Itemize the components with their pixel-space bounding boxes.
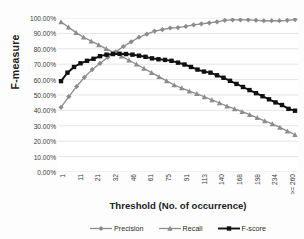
- legend-label: Recall: [183, 224, 203, 233]
- data-point-marker: [222, 18, 227, 23]
- y-axis-tick-labels: 100.00%90.00%80.00%70.00%60.00%50.00%40.…: [16, 12, 56, 178]
- y-axis-tick-label: 30.00%: [14, 122, 56, 129]
- plot-area: [58, 18, 298, 172]
- data-point-marker: [78, 61, 82, 65]
- y-axis-tick-label: 100.00%: [14, 15, 56, 22]
- data-point-marker: [260, 94, 264, 98]
- data-point-marker: [246, 18, 251, 22]
- x-axis-tick-labels: 111213246617591113140168198234>= 260: [58, 174, 298, 200]
- data-point-marker: [168, 25, 173, 30]
- square-marker-icon: [218, 224, 240, 233]
- data-point-marker: [104, 52, 108, 56]
- data-point-marker: [269, 18, 274, 23]
- series-line: [61, 22, 295, 135]
- data-point-marker: [59, 79, 63, 83]
- data-point-marker: [72, 65, 76, 69]
- chart-container: F-measure 100.00%90.00%80.00%70.00%60.00…: [0, 0, 304, 239]
- x-axis-tick-label: 234: [271, 174, 278, 185]
- y-axis-tick-label: 10.00%: [14, 153, 56, 160]
- data-point-marker: [215, 73, 219, 77]
- data-point-marker: [144, 32, 149, 37]
- data-point-marker: [152, 28, 157, 33]
- data-point-marker: [247, 88, 251, 92]
- data-point-marker: [191, 22, 196, 27]
- data-point-marker: [124, 52, 128, 56]
- data-point-marker: [199, 21, 204, 26]
- data-point-marker: [176, 60, 180, 64]
- data-point-marker: [293, 109, 297, 113]
- x-axis-tick-label: 21: [94, 174, 101, 181]
- x-axis-tick-label: 91: [183, 174, 190, 181]
- data-point-marker: [175, 25, 180, 30]
- x-axis-tick-label: 168: [236, 174, 243, 185]
- data-point-marker: [261, 18, 266, 23]
- data-point-marker: [277, 18, 282, 23]
- y-axis-tick-label: 80.00%: [14, 45, 56, 52]
- data-point-marker: [169, 59, 173, 63]
- data-point-marker: [253, 18, 258, 23]
- data-point-marker: [58, 19, 63, 24]
- chart-legend: PrecisionRecallF-score: [58, 221, 298, 235]
- data-point-marker: [267, 97, 271, 101]
- data-point-marker: [202, 69, 206, 73]
- x-axis-tick-label: 61: [147, 174, 154, 181]
- data-point-marker: [65, 70, 69, 74]
- data-point-marker: [234, 82, 238, 86]
- x-axis-tick-label: 198: [254, 174, 261, 185]
- x-axis-tick-label: 140: [218, 174, 225, 185]
- chart-plot-svg: [58, 18, 298, 172]
- x-axis-title: Threshold (No. of occurrence): [58, 200, 298, 211]
- data-point-marker: [285, 128, 290, 133]
- data-point-marker: [160, 27, 165, 32]
- y-axis-tick-label: 50.00%: [14, 92, 56, 99]
- legend-item-f-score[interactable]: F-score: [218, 224, 266, 233]
- y-axis-tick-label: 70.00%: [14, 61, 56, 68]
- legend-label: Precision: [114, 224, 144, 233]
- data-point-marker: [163, 58, 167, 62]
- data-point-marker: [96, 42, 101, 47]
- data-point-marker: [98, 225, 103, 230]
- triangle-marker-icon: [159, 224, 181, 233]
- data-point-marker: [292, 18, 297, 22]
- data-point-marker: [88, 38, 93, 43]
- data-point-marker: [126, 57, 131, 62]
- diamond-marker-icon: [90, 224, 112, 233]
- x-axis-tick-label: 75: [165, 174, 172, 181]
- data-point-marker: [111, 52, 115, 56]
- y-axis-tick-label: 90.00%: [14, 30, 56, 37]
- y-axis-tick-label: 0.00%: [14, 169, 56, 176]
- data-point-marker: [286, 107, 290, 111]
- data-point-marker: [81, 35, 86, 40]
- x-axis-tick-label: 11: [77, 174, 84, 181]
- data-point-marker: [156, 57, 160, 61]
- x-axis-tick-label: 46: [130, 174, 137, 181]
- data-point-marker: [195, 67, 199, 71]
- legend-item-precision[interactable]: Precision: [90, 224, 144, 233]
- data-point-marker: [156, 74, 161, 79]
- data-point-marker: [254, 91, 258, 95]
- data-point-marker: [241, 85, 245, 89]
- data-point-marker: [164, 78, 169, 83]
- series-f-score: [59, 52, 297, 113]
- data-point-marker: [189, 65, 193, 69]
- data-point-marker: [182, 62, 186, 66]
- series-recall: [58, 19, 297, 137]
- data-point-marker: [238, 18, 243, 22]
- data-point-marker: [226, 226, 230, 230]
- data-point-marker: [137, 54, 141, 58]
- y-axis-tick-label: 20.00%: [14, 138, 56, 145]
- x-axis-tick-label: 32: [112, 174, 119, 181]
- data-point-marker: [117, 52, 121, 56]
- data-point-marker: [183, 24, 188, 29]
- data-point-marker: [149, 70, 154, 75]
- data-point-marker: [130, 52, 134, 56]
- y-axis-tick-label: 40.00%: [14, 107, 56, 114]
- data-point-marker: [228, 79, 232, 83]
- data-point-marker: [273, 100, 277, 104]
- data-point-marker: [221, 76, 225, 80]
- data-point-marker: [207, 20, 212, 25]
- x-axis-tick-label: >= 260: [289, 174, 296, 195]
- legend-item-recall[interactable]: Recall: [159, 224, 203, 233]
- data-point-marker: [98, 54, 102, 58]
- data-point-marker: [172, 82, 177, 87]
